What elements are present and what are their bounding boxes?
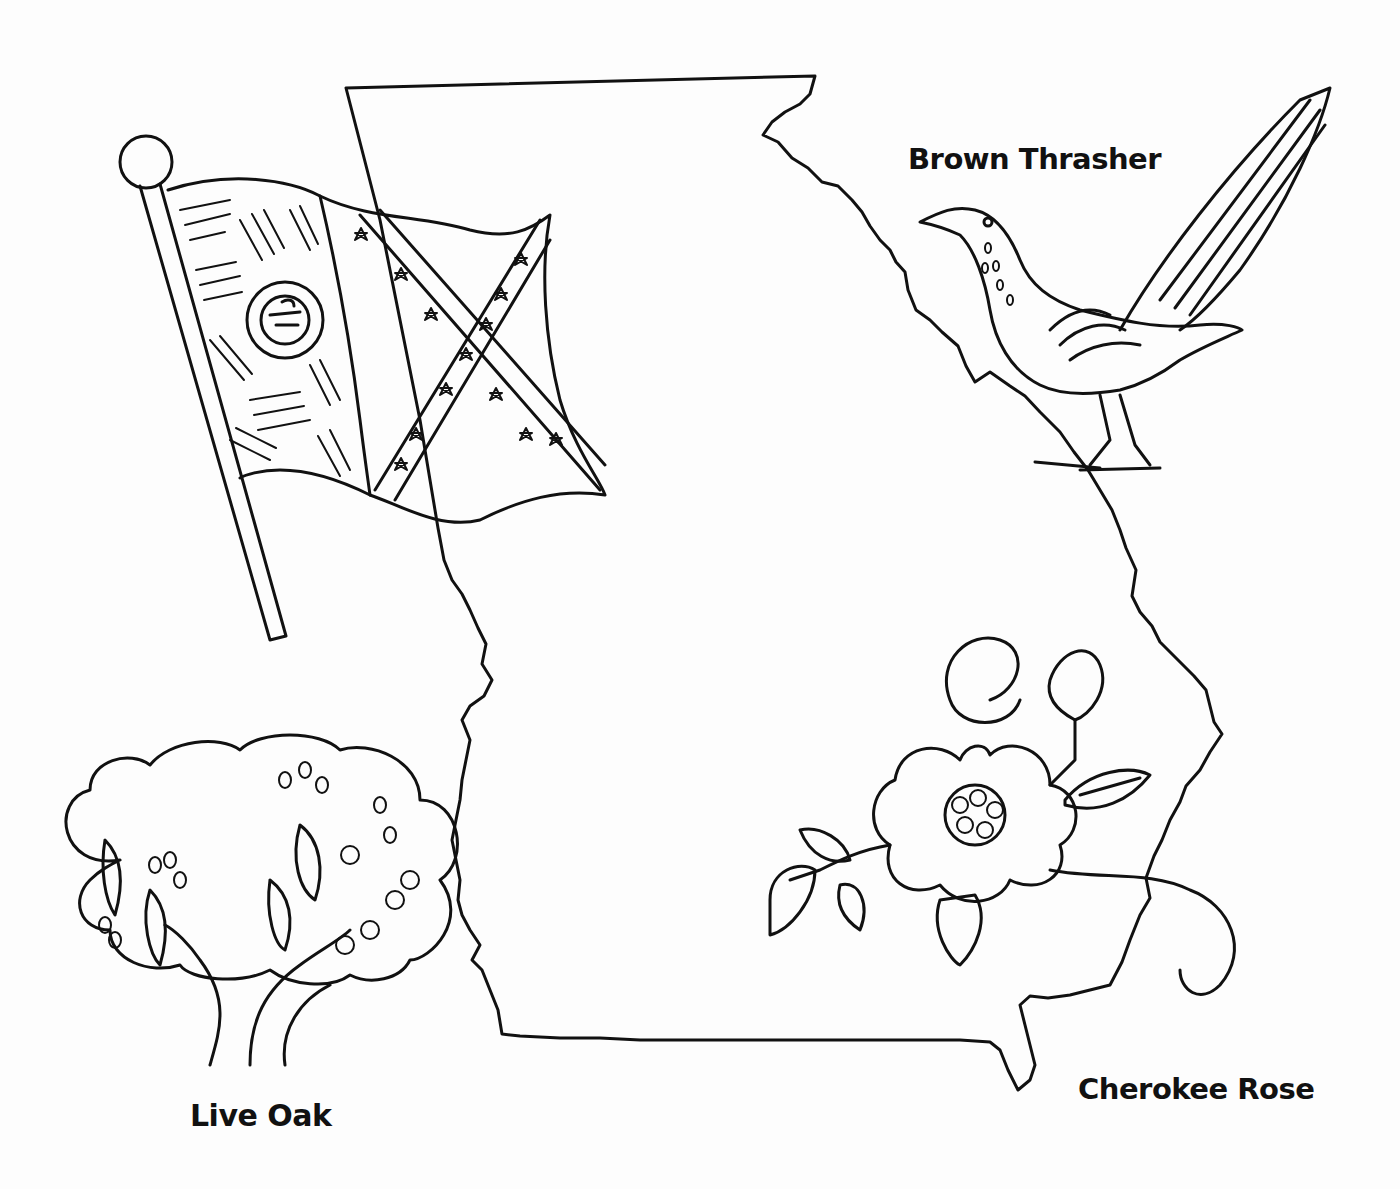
state-flag: [120, 136, 605, 640]
label-brown-thrasher: Brown Thrasher: [908, 142, 1161, 176]
coloring-page: Brown Thrasher Live Oak Cherokee Rose: [0, 0, 1400, 1189]
live-oak-tree: [66, 735, 457, 1065]
line-art: [0, 0, 1400, 1189]
state-map-outline: [346, 76, 1222, 1090]
cherokee-rose-flower: [770, 638, 1234, 994]
label-live-oak: Live Oak: [190, 1098, 331, 1133]
label-cherokee-rose: Cherokee Rose: [1078, 1072, 1314, 1106]
